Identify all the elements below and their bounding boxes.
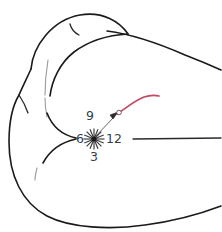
top-hook-detail — [70, 24, 79, 35]
upper-right-outline — [107, 31, 221, 70]
inner-body-outline — [50, 34, 128, 96]
left-fork-branch — [19, 95, 28, 113]
red-annotation-curve — [117, 95, 159, 114]
horizontal-reference-line — [133, 138, 221, 139]
figure-canvas: 9 6 12 3 — [0, 0, 222, 232]
lower-faint-dash — [35, 168, 37, 180]
clock-label-three: 3 — [90, 149, 98, 164]
starburst-point-marker — [84, 129, 105, 150]
clock-label-six: 6 — [76, 131, 84, 146]
clock-label-twelve: 12 — [106, 131, 122, 146]
curve-origin-dot — [117, 110, 122, 115]
left-outer-outline — [19, 69, 31, 95]
upper-lobe-outline — [31, 14, 128, 69]
inner-concave-curve — [47, 113, 76, 138]
lower-inner-curve — [43, 139, 76, 163]
inner-faint-curve-upper — [45, 60, 48, 95]
line-drawing: 9 6 12 3 — [0, 0, 222, 232]
clock-label-nine: 9 — [86, 108, 94, 123]
